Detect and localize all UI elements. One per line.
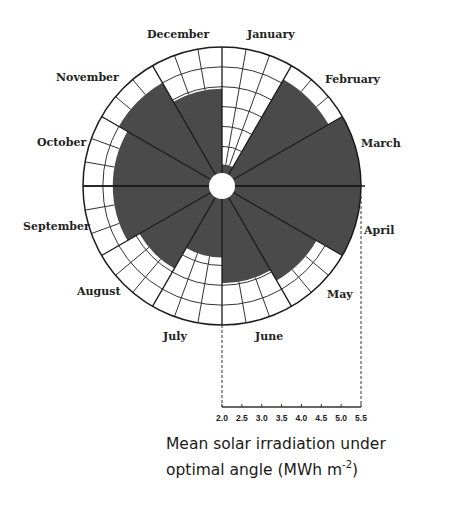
label-december: December — [147, 28, 210, 41]
solar-irradiation-polar-plot: 2.02.53.03.54.04.55.05.5 January Februar… — [0, 0, 462, 505]
caption-unit-exponent: -2 — [342, 459, 352, 470]
scale-tick-label: 2.5 — [236, 413, 248, 423]
scale-tick-label: 2.0 — [216, 413, 228, 423]
label-march: March — [361, 137, 401, 150]
scale-tick-label: 5.0 — [335, 413, 347, 423]
label-august: August — [76, 285, 121, 298]
scale-tick-label: 5.5 — [355, 413, 367, 423]
caption-line-1: Mean solar irradiation under — [166, 431, 462, 457]
label-july: July — [162, 330, 187, 343]
label-november: November — [56, 71, 119, 84]
label-october: October — [37, 136, 86, 149]
label-september: September — [23, 220, 90, 233]
caption-line-2-close: ) — [352, 461, 358, 479]
label-june: June — [254, 330, 283, 343]
caption-line-2: optimal angle (MWh m-2) — [166, 457, 462, 483]
center-hole — [209, 173, 235, 199]
caption-line-2-text: optimal angle (MWh m — [166, 461, 342, 479]
label-january: January — [246, 28, 295, 41]
label-february: February — [325, 73, 381, 86]
scale-tick-label: 4.5 — [315, 413, 327, 423]
label-april: April — [363, 224, 394, 237]
scale-tick-label: 3.5 — [276, 413, 288, 423]
polar-chart: 2.02.53.03.54.04.55.05.5 January Februar… — [0, 0, 462, 505]
label-may: May — [327, 288, 353, 301]
scale-tick-label: 4.0 — [296, 413, 308, 423]
scale-tick-label: 3.0 — [256, 413, 268, 423]
radial-axis-caption: Mean solar irradiation under optimal ang… — [166, 431, 462, 483]
